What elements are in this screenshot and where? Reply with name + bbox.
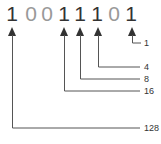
weight-label-16: 16 <box>144 86 154 96</box>
arrow-bit0-icon <box>128 27 136 36</box>
weight-label-4: 4 <box>144 62 149 72</box>
weight-connectors <box>0 0 161 144</box>
arrow-bit4-icon <box>60 27 68 36</box>
arrow-bit3-icon <box>76 27 84 36</box>
weight-label-1: 1 <box>144 38 149 48</box>
weight-label-128: 128 <box>144 123 159 133</box>
weight-label-8: 8 <box>144 74 149 84</box>
arrow-bit7-icon <box>8 27 16 36</box>
arrow-bit2-icon <box>94 27 102 36</box>
